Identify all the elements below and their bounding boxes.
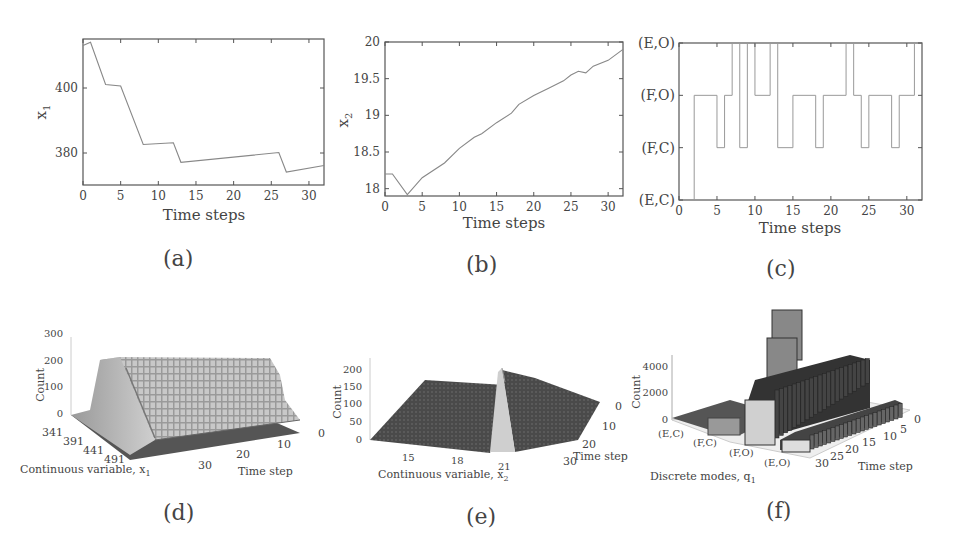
y-ticks: 400 380	[55, 81, 324, 160]
chart-e-svg: 200 150 100 50 0 Count 15 18 21 Continuo…	[330, 290, 640, 500]
svg-text:5: 5	[418, 200, 426, 214]
svg-text:10: 10	[747, 204, 762, 218]
svg-text:30: 30	[600, 200, 615, 214]
svg-text:30: 30	[301, 189, 316, 203]
svg-text:441: 441	[83, 444, 104, 457]
y-axis-label: x2	[334, 113, 354, 128]
svg-text:18.5: 18.5	[353, 145, 380, 159]
svg-text:0: 0	[57, 408, 63, 419]
svg-text:15: 15	[862, 436, 876, 449]
svg-text:0: 0	[675, 204, 683, 218]
svg-text:30: 30	[198, 459, 212, 472]
subplot-label-a: (a)	[163, 246, 193, 271]
svg-text:0: 0	[381, 200, 389, 214]
chart-c: 051015202530 (E,C)(F,C)(F,O)(E,O) Time s…	[630, 0, 956, 240]
svg-text:5: 5	[900, 423, 907, 436]
z-axis-label: Count	[630, 375, 643, 409]
z-ticks: 4000 2000 0	[643, 361, 668, 425]
svg-text:(F,O): (F,O)	[729, 447, 754, 458]
chart-f: 4000 2000 0 Count (E,C) (F,C) (F,O) (E,O…	[630, 290, 956, 500]
svg-text:0: 0	[615, 400, 622, 413]
svg-text:19: 19	[365, 108, 380, 122]
y-axis-label: Time step	[858, 460, 913, 473]
chart-b: 051015202530 1818.51919.520 Time steps x…	[330, 0, 640, 240]
svg-text:10: 10	[151, 189, 166, 203]
plot-frame	[83, 39, 324, 185]
svg-text:15: 15	[188, 189, 203, 203]
z-ticks: 200 150 100 50 0	[343, 364, 362, 445]
bar-eo-front	[782, 440, 810, 452]
plot-frame	[679, 43, 922, 200]
svg-text:x1: x1	[32, 105, 52, 120]
x-ticks: 051015202530	[79, 39, 316, 203]
svg-text:30: 30	[815, 457, 829, 470]
x-axis-label: Time steps	[163, 206, 246, 224]
svg-text:(F,C): (F,C)	[641, 140, 675, 156]
subplot-label-c: (c)	[766, 256, 796, 281]
svg-text:25: 25	[563, 200, 578, 214]
svg-text:150: 150	[343, 381, 362, 392]
chart-a: 051015202530 400 380 Time steps x1	[0, 0, 330, 240]
x-axis-label: Discrete modes, q1	[650, 470, 756, 485]
chart-d-svg: 300 200 100 0 Count 341 391 441 491 Cont…	[0, 290, 330, 500]
svg-text:(F,C): (F,C)	[693, 437, 717, 448]
svg-text:10: 10	[883, 430, 897, 443]
x-axis-label: Time steps	[759, 219, 842, 237]
chart-f-svg: 4000 2000 0 Count (E,C) (F,C) (F,O) (E,O…	[630, 290, 956, 500]
data-step-line	[679, 43, 922, 200]
chart-c-svg: 051015202530 (E,C)(F,C)(F,O)(E,O) Time s…	[630, 0, 956, 240]
svg-text:4000: 4000	[643, 361, 668, 372]
svg-text:0: 0	[318, 427, 325, 440]
svg-text:18: 18	[451, 455, 464, 466]
svg-text:200: 200	[343, 364, 362, 375]
svg-text:2000: 2000	[643, 387, 668, 398]
svg-text:(E,C): (E,C)	[658, 428, 684, 439]
data-line	[83, 42, 324, 172]
svg-text:x2: x2	[334, 113, 354, 128]
svg-text:Count: Count	[630, 375, 643, 409]
x-ticks: 051015202530	[381, 42, 616, 214]
svg-text:15: 15	[785, 204, 800, 218]
x-axis-label: Continuous variable, x1	[20, 463, 151, 478]
svg-text:Count: Count	[331, 385, 344, 419]
svg-text:(F,O): (F,O)	[641, 87, 675, 103]
svg-text:25: 25	[264, 189, 279, 203]
svg-text:30: 30	[899, 204, 914, 218]
svg-text:20: 20	[845, 443, 859, 456]
z-axis-label: Count	[34, 368, 47, 402]
bar-fc-front	[708, 418, 740, 435]
svg-text:Count: Count	[34, 368, 47, 402]
chart-a-svg: 051015202530 400 380 Time steps x1	[0, 0, 330, 240]
z-axis-label: Count	[331, 385, 344, 419]
svg-text:25: 25	[830, 450, 844, 463]
chart-b-svg: 051015202530 1818.51919.520 Time steps x…	[330, 0, 640, 240]
data-line	[385, 49, 623, 194]
subplot-label-b: (b)	[466, 252, 497, 277]
y-axis-label: Time step	[573, 450, 628, 463]
svg-text:20: 20	[236, 448, 250, 461]
svg-text:20: 20	[365, 35, 380, 49]
svg-text:300: 300	[44, 328, 63, 339]
svg-text:(E,O): (E,O)	[764, 457, 791, 468]
svg-text:15: 15	[402, 452, 415, 463]
svg-text:20: 20	[823, 204, 838, 218]
svg-text:0: 0	[914, 413, 921, 426]
svg-text:25: 25	[861, 204, 876, 218]
x-axis-label: Time steps	[463, 214, 546, 232]
y-ticks: (E,C)(F,C)(F,O)(E,O)	[638, 35, 922, 208]
svg-text:18: 18	[365, 182, 380, 196]
subplot-label-d: (d)	[163, 500, 194, 525]
svg-text:0: 0	[356, 434, 362, 445]
svg-text:10: 10	[602, 420, 616, 433]
svg-text:50: 50	[349, 416, 362, 427]
svg-text:(E,C): (E,C)	[639, 192, 675, 208]
y-axis-label: Time step	[238, 465, 293, 478]
svg-text:20: 20	[226, 189, 241, 203]
svg-text:10: 10	[452, 200, 467, 214]
svg-text:341: 341	[42, 426, 63, 439]
x-ticks: 051015202530	[675, 43, 914, 218]
y-tick-label: 400	[55, 81, 78, 95]
chart-d: 300 200 100 0 Count 341 391 441 491 Cont…	[0, 290, 330, 500]
svg-text:10: 10	[277, 438, 291, 451]
svg-text:0: 0	[662, 414, 668, 425]
